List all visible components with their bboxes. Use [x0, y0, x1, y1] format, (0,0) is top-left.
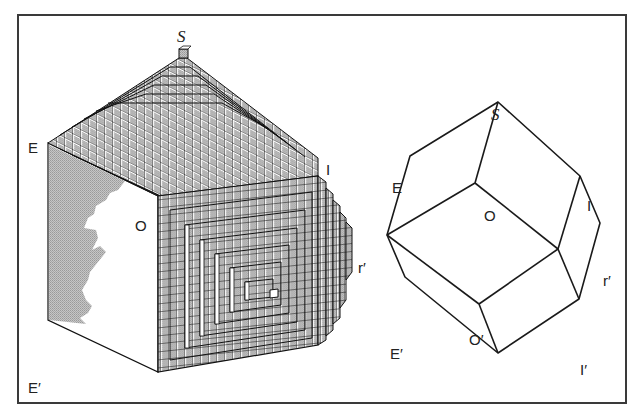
label-left-E: E — [28, 140, 38, 155]
label-right-E: E — [392, 180, 402, 195]
label-left-E-prime: E′ — [28, 380, 41, 395]
label-right-S: S — [491, 106, 500, 123]
label-left-I: I — [326, 162, 330, 177]
stepped-cube-model — [48, 46, 352, 372]
edge-left-Oprime — [387, 235, 479, 304]
label-right-r-prime: r′ — [603, 273, 611, 288]
edge-inner-Oprime — [479, 249, 558, 304]
polyhedron-silhouette — [387, 102, 600, 353]
apex-top — [179, 46, 191, 49]
polyhedron-outline — [387, 102, 600, 353]
edge-I-inner — [558, 176, 580, 249]
right-bulge — [318, 176, 352, 345]
label-right-O: O — [484, 208, 496, 223]
label-right-O-prime: O′ — [469, 332, 483, 347]
label-left-r-prime: r′ — [358, 260, 366, 275]
label-right-E-prime: E′ — [390, 346, 403, 361]
label-right-I: I — [587, 198, 591, 213]
apex-cube — [179, 49, 188, 58]
label-left-S: S — [177, 28, 186, 45]
front-steps — [170, 192, 312, 360]
figure-canvas — [0, 0, 637, 420]
edge-inner-Iprime — [558, 249, 579, 299]
label-right-I-prime: I′ — [580, 362, 587, 377]
label-left-O: O — [135, 218, 147, 233]
